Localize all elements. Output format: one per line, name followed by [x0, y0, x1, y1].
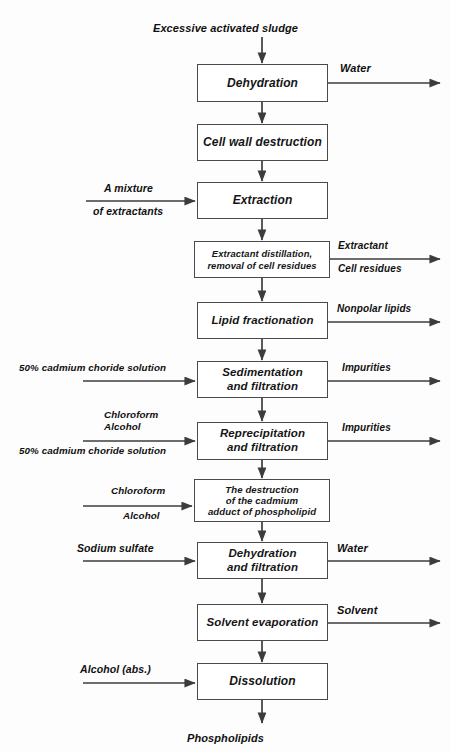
- node-dehydration[interactable]: Dehydration: [197, 64, 328, 102]
- output-label-above-water-1: Water: [340, 62, 371, 75]
- input-label-above-mixture-extractants: A mixture: [104, 182, 153, 195]
- output-label-above-solvent-out: Solvent: [337, 604, 377, 617]
- input-label-above-chloroform-alcohol: Chloroform: [111, 485, 165, 497]
- node-label-extraction: Extraction: [198, 193, 327, 207]
- node-sedimentation[interactable]: Sedimentation and filtration: [197, 361, 328, 398]
- node-cell-wall[interactable]: Cell wall destruction: [197, 124, 328, 161]
- output-label-above-impurities-2: Impurities: [342, 422, 391, 434]
- input-label-above-chloroform-alcohol-cadmium: Chloroform Alcohol: [104, 409, 158, 433]
- input-label-above-cadmium-chloride-1: 50% cadmium choride solution: [19, 362, 166, 374]
- input-label-below-mixture-extractants: of extractants: [93, 205, 163, 218]
- input-label-above-sodium-sulfate: Sodium sulfate: [77, 542, 154, 555]
- node-label-dehydration-filt: Dehydration and filtration: [198, 547, 327, 574]
- node-label-cell-wall: Cell wall destruction: [198, 135, 327, 149]
- flowchart-canvas: DehydrationCell wall destructionExtracti…: [0, 0, 451, 753]
- node-label-dissolution: Dissolution: [198, 674, 327, 688]
- node-label-dehydration: Dehydration: [198, 76, 327, 90]
- node-solvent-evap[interactable]: Solvent evaporation: [197, 604, 328, 641]
- output-label-above-extractant-out: Extractant: [338, 240, 388, 252]
- node-extraction[interactable]: Extraction: [197, 182, 328, 219]
- output-label-above-water-2: Water: [337, 542, 368, 555]
- node-label-lipid-fraction: Lipid fractionation: [198, 314, 327, 328]
- input-label-above-alcohol-abs: Alcohol (abs.): [80, 663, 151, 676]
- input-label-below-chloroform-alcohol-cadmium: 50% cadmium choride solution: [19, 445, 166, 457]
- node-reprecipitation[interactable]: Reprecipitation and filtration: [197, 422, 328, 460]
- node-label-destruction: The destruction of the cadmium adduct of…: [195, 484, 329, 518]
- node-lipid-fraction[interactable]: Lipid fractionation: [197, 302, 328, 339]
- node-dissolution[interactable]: Dissolution: [197, 663, 328, 700]
- output-label-above-nonpolar-lipids: Nonpolar lipids: [337, 303, 411, 315]
- entry-label: Excessive activated sludge: [0, 22, 451, 35]
- node-label-distillation: Extractant distillation, removal of cell…: [195, 248, 329, 270]
- node-label-sedimentation: Sedimentation and filtration: [198, 366, 327, 393]
- input-label-below-chloroform-alcohol: Alcohol: [123, 510, 160, 522]
- node-destruction[interactable]: The destruction of the cadmium adduct of…: [194, 479, 330, 522]
- output-label-below-extractant-out: Cell residues: [338, 263, 402, 275]
- node-dehydration-filt[interactable]: Dehydration and filtration: [197, 542, 328, 579]
- exit-label: Phospholipids: [0, 732, 451, 745]
- node-label-solvent-evap: Solvent evaporation: [198, 616, 327, 630]
- output-label-above-impurities-1: Impurities: [342, 362, 391, 374]
- node-label-reprecipitation: Reprecipitation and filtration: [198, 427, 327, 454]
- node-distillation[interactable]: Extractant distillation, removal of cell…: [194, 241, 330, 278]
